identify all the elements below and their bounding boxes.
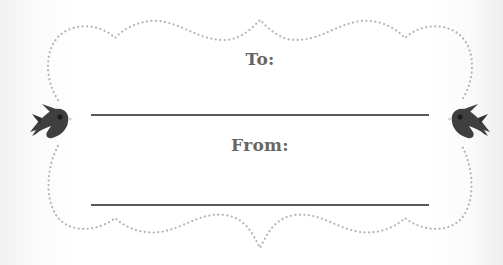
to-write-line[interactable]: [91, 114, 429, 116]
bird-icon: [446, 100, 494, 146]
from-write-line[interactable]: [91, 204, 429, 206]
gift-tag-card: To: From:: [0, 0, 503, 265]
from-label: From:: [0, 135, 503, 155]
bird-icon: [26, 100, 74, 146]
scalloped-dotted-border: [0, 0, 503, 265]
to-label: To:: [0, 49, 503, 69]
